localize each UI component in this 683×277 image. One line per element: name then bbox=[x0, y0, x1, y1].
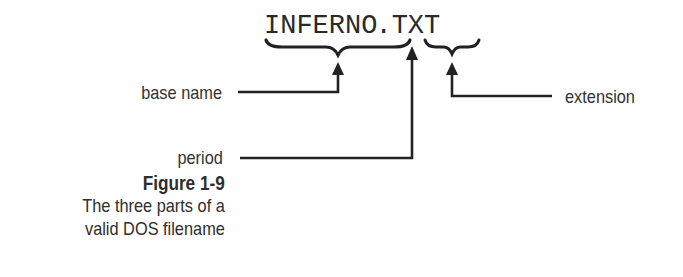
label-extension: extension bbox=[565, 87, 635, 106]
extension-brace-icon bbox=[425, 40, 479, 54]
figure-caption-line-1: The three parts of a bbox=[82, 194, 225, 217]
period-arrow-icon bbox=[240, 46, 418, 158]
extension-arrow-icon bbox=[446, 62, 552, 96]
base-name-brace-icon bbox=[266, 40, 410, 55]
label-period: period bbox=[178, 148, 223, 167]
figure-caption-line-2: valid DOS filename bbox=[82, 217, 225, 240]
figure-caption: Figure 1-9 The three parts of a valid DO… bbox=[59, 172, 225, 240]
figure-title: Figure 1-9 bbox=[82, 172, 225, 194]
label-base-name: base name bbox=[141, 83, 222, 102]
base-name-arrow-icon bbox=[238, 62, 344, 92]
